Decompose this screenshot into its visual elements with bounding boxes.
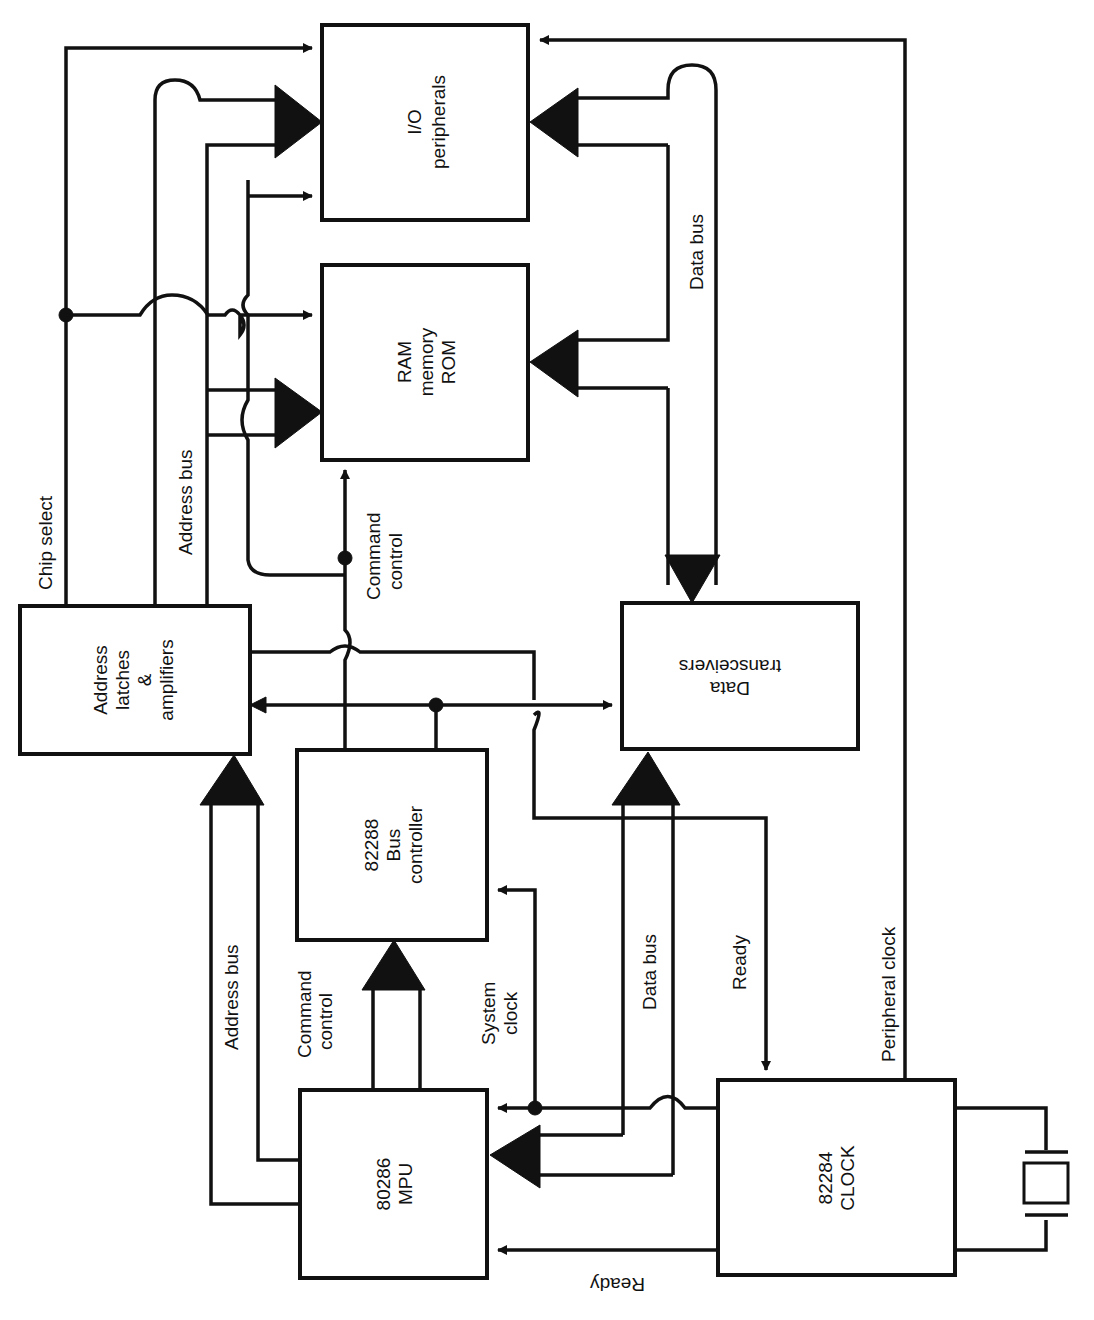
address-latches-block: Address latches & amplifiers xyxy=(20,606,250,754)
mpu-label-1: 80286 xyxy=(373,1158,394,1211)
ram-label-3: ROM xyxy=(438,340,459,384)
ready-right-label: Ready xyxy=(729,935,750,990)
latch-label-2: latches xyxy=(112,650,133,710)
data-bus-bottom-label: Data bus xyxy=(639,934,660,1010)
busctl-label-3: controller xyxy=(405,805,426,884)
mpu-block: 80286 MPU xyxy=(300,1090,487,1278)
data-transceivers-block: Data transceivers xyxy=(622,603,858,749)
command-control-top-label-2: control xyxy=(385,533,406,590)
crystal-oscillator-icon xyxy=(955,1108,1068,1250)
command-control-bottom xyxy=(362,940,425,1090)
latch-label-3: & xyxy=(134,673,155,686)
block-diagram-80286-system: I/O peripherals RAM memory ROM Address l… xyxy=(0,0,1094,1320)
io-label-1: I/O xyxy=(404,109,425,134)
bus-controller-block: 82288 Bus controller xyxy=(297,750,487,940)
busctl-label-1: 82288 xyxy=(361,819,382,872)
xcvr-label-2: transceivers xyxy=(679,656,781,677)
ram-label-1: RAM xyxy=(394,341,415,383)
peripheral-clock-label: Peripheral clock xyxy=(878,926,899,1062)
command-control-bottom-label-2: control xyxy=(315,993,336,1050)
command-control-bottom-label-1: Command xyxy=(294,970,315,1058)
clock-label-2: CLOCK xyxy=(837,1145,858,1211)
io-peripherals-block: I/O peripherals xyxy=(322,25,528,220)
data-bus-top xyxy=(530,65,720,603)
clock-generator-block: 82284 CLOCK xyxy=(718,1080,955,1275)
mpu-label-2: MPU xyxy=(395,1163,416,1205)
ram-rom-block: RAM memory ROM xyxy=(322,265,528,460)
io-label-2: peripherals xyxy=(428,75,449,169)
command-control-top-label-1: Command xyxy=(363,512,384,600)
chip-select-label: Chip select xyxy=(35,495,56,590)
address-bus-bottom xyxy=(200,755,300,1204)
ready-bottom-label: Ready xyxy=(590,1274,645,1295)
system-clock-label-1: System xyxy=(478,982,499,1045)
xcvr-label-1: Data xyxy=(710,678,751,699)
address-bus-bottom-label: Address bus xyxy=(221,944,242,1050)
address-bus-top-label: Address bus xyxy=(175,449,196,555)
system-clock-line xyxy=(498,890,718,1115)
clock-label-1: 82284 xyxy=(815,1151,836,1204)
system-clock-label-2: clock xyxy=(500,991,521,1035)
latch-label-1: Address xyxy=(90,645,111,715)
data-bus-top-label: Data bus xyxy=(686,214,707,290)
ram-label-2: memory xyxy=(416,327,437,396)
busctl-label-2: Bus xyxy=(383,829,404,862)
latch-label-4: amplifiers xyxy=(156,639,177,720)
command-control-top xyxy=(338,470,352,750)
peripheral-clock-line xyxy=(540,40,905,1080)
